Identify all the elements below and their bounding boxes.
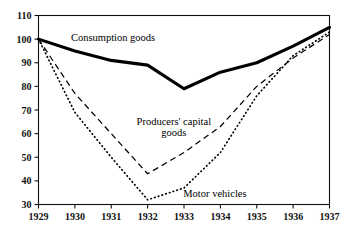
x-tick-label-1937: 1937 bbox=[320, 211, 340, 222]
x-tick-label-1936: 1936 bbox=[283, 211, 303, 222]
y-tick-label-110: 110 bbox=[17, 10, 31, 21]
chart-container: 30405060708090100110 1929193019311932193… bbox=[0, 0, 348, 242]
x-tick-label-1929: 1929 bbox=[29, 211, 49, 222]
x-tick-label-1933: 1933 bbox=[174, 211, 194, 222]
x-tick-label-1931: 1931 bbox=[101, 211, 121, 222]
series-annotation-3: Motor vehicles bbox=[183, 188, 246, 199]
series-annotation-1: Producers' capital bbox=[137, 116, 212, 127]
line-chart: 30405060708090100110 1929193019311932193… bbox=[0, 0, 348, 242]
x-axis-tick-labels: 192919301931193219331934193519361937 bbox=[29, 211, 340, 222]
x-tick-label-1930: 1930 bbox=[65, 211, 85, 222]
y-tick-label-80: 80 bbox=[22, 81, 32, 92]
y-tick-label-70: 70 bbox=[22, 105, 32, 116]
series-annotation-2: goods bbox=[161, 127, 186, 138]
y-tick-label-50: 50 bbox=[22, 152, 32, 163]
series-annotation-0: Consumption goods bbox=[71, 32, 155, 43]
y-tick-label-100: 100 bbox=[17, 34, 32, 45]
x-tick-label-1935: 1935 bbox=[247, 211, 267, 222]
x-tick-label-1932: 1932 bbox=[138, 211, 158, 222]
y-tick-label-90: 90 bbox=[22, 57, 32, 68]
x-tick-label-1934: 1934 bbox=[210, 211, 230, 222]
y-tick-label-40: 40 bbox=[22, 175, 32, 186]
y-tick-label-30: 30 bbox=[22, 199, 32, 210]
y-tick-label-60: 60 bbox=[22, 128, 32, 139]
